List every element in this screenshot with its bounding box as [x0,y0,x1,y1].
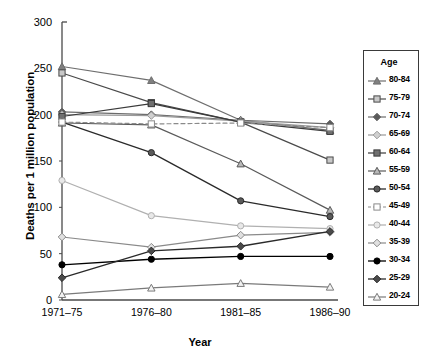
legend-label: 50-54 [389,182,410,192]
legend-item-70-74[interactable]: 70-74 [364,106,418,124]
legend-marker-55-59-icon [367,163,387,175]
legend-title: Age [364,57,418,67]
legend-label: 80-84 [389,74,410,84]
legend-marker-35-39-icon [367,235,387,247]
legend-label: 70-74 [389,110,410,120]
legend-marker-25-29-icon [367,271,387,283]
legend-item-30-34[interactable]: 30-34 [364,250,418,268]
legend: Age 80-8475-7970-7465-6960-6455-5950-544… [363,50,419,306]
legend-label: 75-79 [389,92,410,102]
legend-marker-75-79-icon [367,91,387,103]
legend-label: 60-64 [389,146,410,156]
legend-label: 40-44 [389,218,410,228]
legend-label: 45-49 [389,200,410,210]
legend-item-35-39[interactable]: 35-39 [364,232,418,250]
legend-marker-65-69-icon [367,127,387,139]
legend-label: 25-29 [389,272,410,282]
series-50-54 [59,119,333,220]
legend-item-65-69[interactable]: 65-69 [364,124,418,142]
legend-marker-30-34-icon [367,253,387,265]
legend-item-55-59[interactable]: 55-59 [364,160,418,178]
legend-marker-80-84-icon [367,73,387,85]
chart-figure: Deaths per 1 million population Year 300… [0,0,425,359]
series-20-24 [58,280,333,298]
legend-marker-45-49-icon [367,199,387,211]
series-25-29 [58,228,334,282]
legend-marker-40-44-icon [367,217,387,229]
legend-marker-50-54-icon [367,181,387,193]
legend-label: 20-24 [389,290,410,300]
legend-item-80-84[interactable]: 80-84 [364,70,418,88]
legend-item-45-49[interactable]: 45-49 [364,196,418,214]
legend-item-75-79[interactable]: 75-79 [364,88,418,106]
legend-label: 35-39 [389,236,410,246]
series-40-44 [59,177,333,231]
legend-item-40-44[interactable]: 40-44 [364,214,418,232]
series-75-79 [59,70,333,163]
legend-marker-70-74-icon [367,109,387,121]
series-55-59 [58,119,333,213]
legend-item-25-29[interactable]: 25-29 [364,268,418,286]
legend-marker-20-24-icon [367,289,387,301]
legend-item-20-24[interactable]: 20-24 [364,286,418,304]
series-65-69 [58,111,334,132]
series-35-39 [58,229,334,251]
legend-label: 55-59 [389,164,410,174]
legend-label: 30-34 [389,254,410,264]
legend-marker-60-64-icon [367,145,387,157]
legend-item-50-54[interactable]: 50-54 [364,178,418,196]
legend-label: 65-69 [389,128,410,138]
legend-item-60-64[interactable]: 60-64 [364,142,418,160]
plot-area [0,0,425,359]
